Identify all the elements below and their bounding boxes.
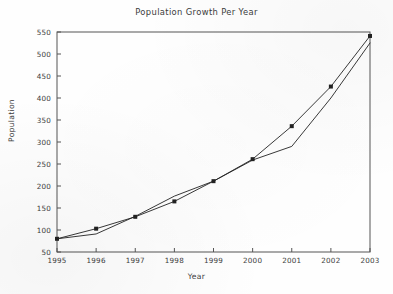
y-tick-label: 550 (37, 28, 52, 37)
data-line (57, 43, 370, 239)
plot-area: 50100150200250300350400450500550 1995199… (0, 0, 393, 294)
x-tick-label: 2003 (360, 256, 379, 265)
x-tick-label: 2000 (243, 256, 262, 265)
y-tick-label: 100 (37, 226, 52, 235)
data-point-marker (368, 34, 372, 38)
x-tick-label: 1996 (87, 256, 106, 265)
x-tick-label: 1995 (47, 256, 66, 265)
x-axis-ticks: 199519961997199819992000200120022003 (47, 248, 379, 265)
x-tick-label: 1998 (165, 256, 184, 265)
x-tick-label: 2001 (282, 256, 301, 265)
data-line (57, 36, 370, 239)
plot-frame (57, 32, 370, 252)
data-point-marker (290, 124, 294, 128)
axes (57, 32, 370, 252)
y-tick-label: 300 (37, 138, 52, 147)
y-tick-label: 150 (37, 204, 52, 213)
data-point-marker (94, 227, 98, 231)
data-point-marker (172, 199, 176, 203)
y-tick-label: 200 (37, 182, 52, 191)
y-tick-label: 400 (37, 94, 52, 103)
x-tick-label: 2002 (321, 256, 340, 265)
x-tick-label: 1999 (204, 256, 223, 265)
y-tick-label: 350 (37, 116, 52, 125)
x-tick-label: 1997 (126, 256, 145, 265)
data-point-marker (329, 85, 333, 89)
data-series-group (55, 34, 372, 241)
chart-figure: Population Growth Per Year Population Ye… (0, 0, 393, 294)
y-tick-label: 500 (37, 50, 52, 59)
y-tick-label: 450 (37, 72, 52, 81)
y-tick-label: 250 (37, 160, 52, 169)
